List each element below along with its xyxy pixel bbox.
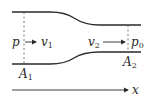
pressure-p-label: p (12, 35, 20, 49)
area-a2-label: A2 (122, 55, 137, 70)
velocity-v1-label: v1 (41, 35, 53, 50)
area-a1-label: A1 (18, 67, 33, 82)
pressure-p0-label: p0 (131, 35, 144, 50)
nozzle-bottom-wall (12, 52, 141, 64)
velocity-v2-label: v2 (88, 35, 100, 50)
x-axis-label: x (132, 83, 139, 97)
nozzle-diagram: p v1 v2 p0 A1 A2 x (0, 0, 153, 98)
nozzle-top-wall (12, 12, 141, 25)
